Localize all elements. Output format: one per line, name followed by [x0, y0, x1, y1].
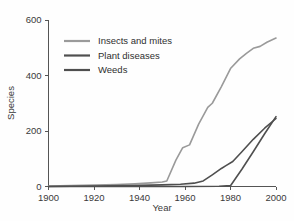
x-tick-label: 1980 — [220, 192, 241, 203]
y-tick-label: 0 — [36, 181, 41, 192]
x-tick-label: 1920 — [83, 192, 104, 203]
legend-label-insects-and-mites: Insects and mites — [98, 35, 172, 46]
line-chart: 0200400600 190019201940196019802000 Inse… — [0, 0, 294, 221]
y-tick-label: 400 — [26, 70, 42, 81]
x-tick-label: 1940 — [129, 192, 150, 203]
legend-label-plant-diseases: Plant diseases — [98, 50, 160, 61]
chart-legend: Insects and mitesPlant diseasesWeeds — [64, 35, 172, 75]
x-axis-title: Year — [152, 202, 171, 213]
x-axis-ticks: 190019201940196019802000 — [38, 187, 287, 203]
y-tick-label: 600 — [26, 14, 42, 25]
y-axis-ticks: 0200400600 — [26, 14, 49, 192]
x-tick-label: 2000 — [265, 192, 286, 203]
x-tick-label: 1960 — [174, 192, 195, 203]
data-series-group — [49, 38, 277, 186]
series-line-insects-and-mites — [49, 38, 277, 186]
y-axis-title: Species — [5, 86, 16, 120]
legend-label-weeds: Weeds — [98, 64, 128, 75]
chart-figure: 0200400600 190019201940196019802000 Inse… — [0, 0, 294, 221]
series-line-plant-diseases — [49, 119, 277, 187]
x-tick-label: 1900 — [38, 192, 59, 203]
y-tick-label: 200 — [26, 125, 42, 136]
